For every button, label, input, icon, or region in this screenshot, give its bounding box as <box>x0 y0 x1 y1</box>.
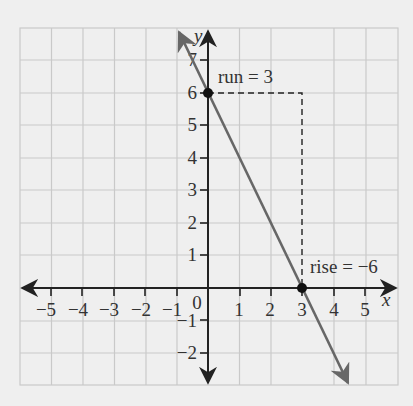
x-tick-label: 1 <box>234 299 244 320</box>
y-tick-label: 3 <box>188 179 198 200</box>
y-tick-label: −2 <box>177 342 197 363</box>
rise-annotation: rise = −6 <box>310 256 378 277</box>
y-tick-label: 4 <box>188 147 198 168</box>
x-tick-label: 4 <box>329 299 339 320</box>
point-y-intercept <box>203 88 213 98</box>
y-tick-label: 2 <box>188 212 198 233</box>
x-tick-label: −5 <box>36 299 56 320</box>
y-tick-labels: 1 2 3 4 5 6 7 −1 −2 <box>177 49 198 363</box>
chart: −5 −4 −3 −2 −1 1 2 3 4 5 0 1 2 3 4 5 6 7… <box>0 0 413 406</box>
run-annotation: run = 3 <box>218 66 273 87</box>
x-tick-label: 3 <box>297 299 307 320</box>
y-tick-label: 1 <box>188 244 198 265</box>
x-tick-label: −4 <box>68 299 89 320</box>
y-tick-label: 6 <box>188 82 198 103</box>
x-tick-label: −3 <box>99 299 119 320</box>
x-tick-label: 2 <box>265 299 275 320</box>
y-axis-label: y <box>192 25 203 46</box>
x-tick-label: 5 <box>360 299 370 320</box>
y-tick-label: 5 <box>188 114 198 135</box>
x-tick-label: −2 <box>131 299 151 320</box>
x-tick-labels: −5 −4 −3 −2 −1 1 2 3 4 5 <box>36 299 370 320</box>
x-axis-label: x <box>381 289 391 310</box>
point-x-intercept <box>297 283 307 293</box>
y-tick-label: −1 <box>177 310 197 331</box>
